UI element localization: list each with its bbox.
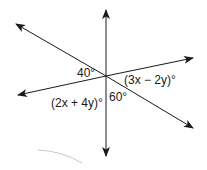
smudge-arc <box>38 150 82 163</box>
angle-label-60: 60° <box>109 90 127 104</box>
angle-label-2x-4y: (2x + 4y)° <box>51 96 103 110</box>
diagram-canvas: 40° (3x − 2y)° (2x + 4y)° 60° <box>0 0 207 170</box>
angle-diagram: 40° (3x − 2y)° (2x + 4y)° 60° <box>0 0 207 170</box>
angle-label-40: 40° <box>77 66 95 80</box>
angle-label-3x-2y: (3x − 2y)° <box>124 73 176 87</box>
